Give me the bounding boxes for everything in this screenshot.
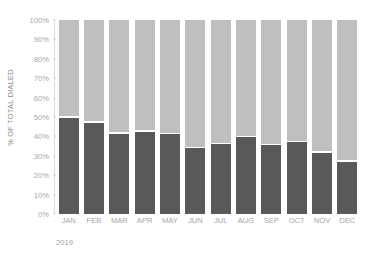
x-axis-tick-label: SEP [259,216,284,225]
bar-segment-light[interactable] [160,20,180,133]
y-axis-title-label: % OF TOTAL DIALED [6,69,15,146]
bar-segment-light[interactable] [261,20,281,144]
bar-segment-dark[interactable] [135,132,155,214]
x-axis-tick-label: OCT [284,216,309,225]
y-axis-tick-label: 90% [16,35,49,44]
bar-segment-dark[interactable] [109,134,129,215]
bar-column[interactable] [312,20,332,214]
y-axis-tick-label: 80% [16,54,49,63]
bar-segment-dark[interactable] [337,162,357,214]
bar-column[interactable] [160,20,180,214]
bar-segment-dark[interactable] [261,145,281,214]
x-axis-tick-label: MAY [157,216,182,225]
bar-segment-light[interactable] [236,20,256,136]
x-axis-tick-label: JUN [183,216,208,225]
bar-column[interactable] [185,20,205,214]
bar-segment-light[interactable] [287,20,307,141]
x-axis-tick-label: APR [132,216,157,225]
x-axis-tick-label: FEB [81,216,106,225]
x-axis-tick-group: JANFEBMARAPRMAYJUNJULAUGSEPOCTNOVDEC [56,216,360,230]
bar-segment-light[interactable] [109,20,129,132]
y-axis-tick-label: 50% [16,113,49,122]
y-axis-tick-label: 20% [16,171,49,180]
bar-column[interactable] [59,20,79,214]
bar-column[interactable] [236,20,256,214]
y-axis-tick-label: 60% [16,93,49,102]
bar-segment-dark[interactable] [59,118,79,214]
y-axis-tick-label: 0% [16,210,49,219]
y-axis-tick-label: 70% [16,74,49,83]
bar-segment-light[interactable] [337,20,357,160]
y-axis-tick-group: 0%10%20%30%40%50%60%70%80%90%100% [20,20,53,214]
y-axis-tick-label: 100% [16,16,49,25]
x-axis-tick-label: AUG [233,216,258,225]
bar-segment-dark[interactable] [236,137,256,214]
bar-segment-dark[interactable] [185,148,205,214]
bar-segment-light[interactable] [135,20,155,130]
x-axis-group-label: 2019 [56,238,73,247]
bar-segment-dark[interactable] [211,144,231,214]
bar-segment-light[interactable] [211,20,231,143]
bar-segment-light[interactable] [312,20,332,151]
bar-segment-dark[interactable] [160,134,180,214]
y-axis-tick-label: 40% [16,132,49,141]
bar-segment-dark[interactable] [84,123,104,214]
x-axis-tick-label: MAR [107,216,132,225]
bar-column[interactable] [135,20,155,214]
x-axis-tick-label: NOV [309,216,334,225]
x-axis-tick-label: JAN [56,216,81,225]
bar-column[interactable] [287,20,307,214]
bar-column[interactable] [337,20,357,214]
y-axis-tick-label: 10% [16,190,49,199]
bar-column[interactable] [84,20,104,214]
plot-area [56,20,360,214]
bar-segment-light[interactable] [185,20,205,147]
y-axis-line [54,20,55,214]
y-axis-tick-label: 30% [16,151,49,160]
bar-column[interactable] [211,20,231,214]
x-axis-tick-label: DEC [335,216,360,225]
stacked-bar-chart: % OF TOTAL DIALED 0%10%20%30%40%50%60%70… [0,0,366,265]
x-axis-tick-label: JUL [208,216,233,225]
bar-segment-light[interactable] [84,20,104,121]
bar-segment-dark[interactable] [312,153,332,214]
bar-column[interactable] [261,20,281,214]
bar-segment-light[interactable] [59,20,79,116]
bar-column[interactable] [109,20,129,214]
y-axis-title: % OF TOTAL DIALED [0,0,20,214]
bar-segment-dark[interactable] [287,142,307,214]
